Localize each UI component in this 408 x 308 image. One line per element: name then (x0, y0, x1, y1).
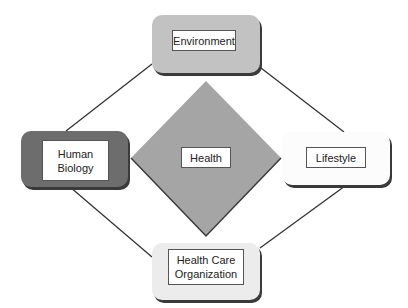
node-human-biology-label: Human Biology (42, 140, 109, 181)
edge-environment-lifestyle (261, 68, 344, 132)
edge-environment-human-biology (66, 64, 152, 131)
center-health-label: Health (181, 147, 231, 168)
node-lifestyle: Lifestyle (282, 132, 390, 185)
node-health-care-organization: Health Care Organization (152, 243, 260, 300)
edge-human-biology-hco (70, 187, 152, 257)
node-human-biology: Human Biology (21, 131, 128, 187)
node-environment-label: Environment (172, 30, 236, 51)
node-hco-label: Health Care Organization (168, 249, 244, 285)
node-lifestyle-label: Lifestyle (306, 147, 366, 168)
node-environment: Environment (152, 15, 260, 73)
edge-lifestyle-hco (260, 186, 345, 248)
